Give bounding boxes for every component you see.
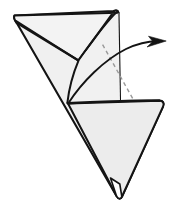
origami-diagram [0, 0, 179, 218]
origami-illustration [0, 0, 179, 218]
